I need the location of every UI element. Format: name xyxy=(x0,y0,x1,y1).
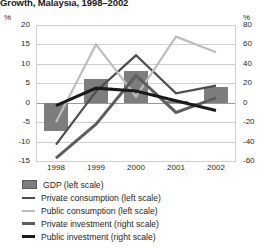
legend-item: Private investment (right scale) xyxy=(22,217,272,230)
legend-label: Private consumption (left scale) xyxy=(41,193,161,203)
left-tick-20: 20 xyxy=(4,21,30,29)
gridline--15 xyxy=(36,161,236,162)
chart-legend: GDP (left scale)Private consumption (lef… xyxy=(22,178,272,243)
legend-label: Public investment (right scale) xyxy=(41,232,156,242)
legend-line-swatch xyxy=(22,222,35,225)
line-private-left xyxy=(56,55,216,144)
left-tick-5: 5 xyxy=(4,79,30,87)
right-tick-0: 0 xyxy=(243,99,271,107)
left-tick-15: 15 xyxy=(4,40,30,48)
right-tick--20: -20 xyxy=(243,118,271,126)
left-tick--10: -10 xyxy=(4,138,30,146)
x-tick-2001: 2001 xyxy=(159,164,193,172)
right-tick-40: 40 xyxy=(243,60,271,68)
x-tick-1999: 1999 xyxy=(79,164,113,172)
left-tick--5: -5 xyxy=(4,118,30,126)
x-tick-2002: 2002 xyxy=(199,164,233,172)
legend-line-swatch xyxy=(22,235,35,238)
line-public-left xyxy=(56,37,216,122)
legend-label: Private investment (right scale) xyxy=(41,219,159,229)
left-tick-0: 0 xyxy=(4,99,30,107)
left-tick-10: 10 xyxy=(4,60,30,68)
right-tick-20: 20 xyxy=(243,79,271,87)
x-tick-1998: 1998 xyxy=(39,164,73,172)
right-tick-60: 60 xyxy=(243,40,271,48)
right-tick--40: -40 xyxy=(243,138,271,146)
legend-line-swatch xyxy=(22,197,35,199)
legend-item: Private consumption (left scale) xyxy=(22,191,272,204)
line-series-layer xyxy=(36,25,236,161)
right-tick-80: 80 xyxy=(243,21,271,29)
legend-label: GDP (left scale) xyxy=(43,180,104,190)
legend-label: Public consumption (left scale) xyxy=(41,206,158,216)
left-tick--15: -15 xyxy=(4,157,30,165)
right-tick--60: -60 xyxy=(243,157,271,165)
legend-item: Public consumption (left scale) xyxy=(22,204,272,217)
line-private-right xyxy=(56,76,216,159)
plot-area xyxy=(36,25,236,161)
legend-item: Public investment (right scale) xyxy=(22,230,272,243)
legend-bar-swatch xyxy=(22,180,37,189)
legend-item: GDP (left scale) xyxy=(22,178,272,191)
legend-line-swatch xyxy=(22,210,35,212)
chart-figure: Growth, Malaysia, 1998–2002 % % 20151050… xyxy=(0,0,275,248)
chart-title: Growth, Malaysia, 1998–2002 xyxy=(0,0,270,8)
x-tick-2000: 2000 xyxy=(119,164,153,172)
